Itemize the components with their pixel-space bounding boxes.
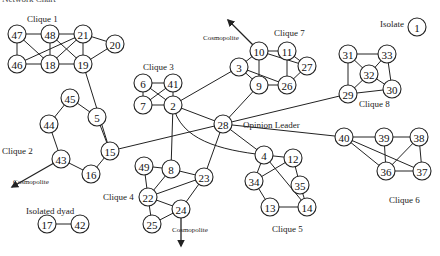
node-label: 19 <box>78 59 90 71</box>
node-label: 2 <box>170 100 176 112</box>
node-label: 16 <box>86 169 98 181</box>
node-label: 6 <box>140 78 146 90</box>
node-26: 26 <box>278 76 296 94</box>
node-label: 46 <box>12 59 24 71</box>
node-label: 32 <box>364 69 375 81</box>
node-19: 19 <box>74 55 92 73</box>
isolated-dyad-label: Isolated dyad <box>26 206 75 216</box>
opinion-leader-label: Opinion Leader <box>243 120 300 130</box>
node-37: 37 <box>413 162 431 180</box>
node-25: 25 <box>143 215 161 233</box>
node-8: 8 <box>162 160 180 178</box>
node-label: 29 <box>343 89 355 101</box>
node-49: 49 <box>135 157 153 175</box>
node-33: 33 <box>378 45 396 63</box>
node-47: 47 <box>8 25 26 43</box>
node-label: 10 <box>254 46 266 58</box>
node-label: 37 <box>417 166 429 178</box>
node-18: 18 <box>41 55 59 73</box>
node-5: 5 <box>88 108 106 126</box>
clique6-label: Clique 6 <box>389 195 420 205</box>
clique2-label: Clique 2 <box>2 146 33 156</box>
node-41: 41 <box>164 74 182 92</box>
node-15: 15 <box>101 142 119 160</box>
isolate-label: Isolate <box>380 19 404 29</box>
node-28: 28 <box>214 115 232 133</box>
node-42: 42 <box>71 215 89 233</box>
edge-2-8 <box>171 105 173 169</box>
node-43: 43 <box>52 150 70 168</box>
node-label: 35 <box>295 180 307 192</box>
node-label: 39 <box>379 132 391 144</box>
node-label: 34 <box>249 176 261 188</box>
node-40: 40 <box>335 128 353 146</box>
node-31: 31 <box>339 45 357 63</box>
node-label: 30 <box>387 84 399 96</box>
node-label: 49 <box>139 161 151 173</box>
node-44: 44 <box>40 115 58 133</box>
clique8-label: Clique 8 <box>359 99 390 109</box>
edge-2-3 <box>173 67 239 105</box>
nodes-layer: 4748212046181964172455441543161742281011… <box>8 18 431 233</box>
node-6: 6 <box>134 74 152 92</box>
node-2: 2 <box>164 96 182 114</box>
node-14: 14 <box>298 198 316 216</box>
clique1-label: Clique 1 <box>27 14 58 24</box>
node-label: 9 <box>256 80 262 92</box>
node-label: 38 <box>414 132 426 144</box>
node-label: 13 <box>265 202 277 214</box>
node-label: 26 <box>282 80 294 92</box>
node-label: 7 <box>140 100 146 112</box>
node-3: 3 <box>230 58 248 76</box>
node-35: 35 <box>291 176 309 194</box>
node-48: 48 <box>41 25 59 43</box>
cosmopolite-top-label: Cosmopolite <box>203 34 239 42</box>
node-label: 25 <box>147 219 159 231</box>
node-label: 20 <box>110 39 122 51</box>
node-20: 20 <box>106 35 124 53</box>
node-12: 12 <box>284 149 302 167</box>
node-label: 22 <box>143 192 154 204</box>
diagram-title: Network Chart <box>2 0 56 4</box>
node-label: 42 <box>75 219 86 231</box>
node-label: 12 <box>288 153 299 165</box>
node-29: 29 <box>339 85 357 103</box>
node-label: 14 <box>302 202 314 214</box>
node-label: 5 <box>94 112 100 124</box>
clique5-label: Clique 5 <box>272 224 303 234</box>
node-label: 8 <box>168 164 174 176</box>
cosmopolite-left-label: Cosmopolite <box>13 178 49 186</box>
clique3-label: Clique 3 <box>143 62 174 72</box>
node-1: 1 <box>408 18 426 36</box>
node-label: 24 <box>176 204 188 216</box>
node-label: 48 <box>45 29 57 41</box>
node-17: 17 <box>38 215 56 233</box>
node-10: 10 <box>250 42 268 60</box>
node-label: 15 <box>105 146 117 158</box>
node-label: 3 <box>236 62 242 74</box>
node-22: 22 <box>139 188 157 206</box>
node-36: 36 <box>377 162 395 180</box>
node-label: 43 <box>56 154 68 166</box>
node-label: 1 <box>414 22 420 34</box>
cosmopolite-bottom-label: Cosmopolite <box>172 226 208 234</box>
node-label: 40 <box>339 132 351 144</box>
node-label: 17 <box>42 219 54 231</box>
node-9: 9 <box>250 76 268 94</box>
clique7-label: Clique 7 <box>274 28 305 38</box>
node-label: 33 <box>382 49 394 61</box>
node-24: 24 <box>172 200 190 218</box>
edge-15-28 <box>110 124 223 151</box>
node-46: 46 <box>8 55 26 73</box>
node-32: 32 <box>360 65 378 83</box>
node-4: 4 <box>255 146 273 164</box>
node-label: 41 <box>168 78 179 90</box>
node-38: 38 <box>410 128 428 146</box>
node-label: 4 <box>261 150 267 162</box>
node-27: 27 <box>298 57 316 75</box>
node-label: 27 <box>302 61 314 73</box>
node-21: 21 <box>74 25 92 43</box>
node-label: 31 <box>343 49 354 61</box>
node-label: 11 <box>282 46 293 58</box>
node-23: 23 <box>195 168 213 186</box>
